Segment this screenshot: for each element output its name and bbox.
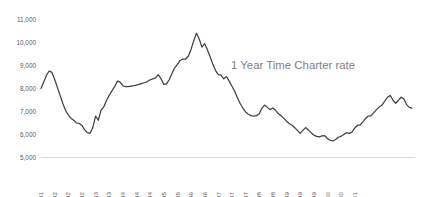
x-tick-label: 8-1996	[201, 191, 208, 197]
line-chart: 5,0006,0007,0008,0009,00010,00011,000 8-…	[0, 0, 424, 197]
x-tick-label: 2-1994	[119, 191, 126, 197]
y-tick-label: 11,000	[17, 16, 37, 23]
chart-title: 1 Year Time Charter rate	[231, 59, 355, 71]
y-tick-label: 8,000	[20, 85, 36, 92]
x-tick-label: 6-1992	[64, 191, 71, 197]
x-tick-label: 10-2000	[337, 191, 344, 197]
x-tick-label: 9-1993	[105, 191, 112, 197]
x-axis-tick-labels: 8-19911-19926-199211-19924-19939-19932-1…	[37, 191, 358, 197]
x-tick-label: 4-1993	[92, 191, 99, 197]
x-tick-label: 5-1995	[160, 191, 167, 197]
x-tick-label: 6-1997	[228, 191, 235, 197]
x-tick-label: 11-1997	[242, 191, 249, 197]
x-tick-label: 5-2000	[324, 191, 331, 197]
y-tick-label: 10,000	[16, 39, 36, 46]
x-tick-label: 10-1995	[174, 191, 181, 197]
x-tick-label: 7-1994	[133, 191, 140, 197]
y-tick-label: 5,000	[20, 154, 36, 161]
x-tick-label: 12-1994	[146, 191, 153, 197]
x-tick-label: 9-1998	[269, 191, 276, 197]
y-tick-label: 6,000	[20, 131, 36, 138]
x-tick-label: 1-1997	[215, 191, 222, 197]
x-tick-label: 8-1991	[37, 191, 44, 197]
y-tick-label: 7,000	[20, 108, 36, 115]
x-tick-label: 2-1999	[283, 191, 290, 197]
y-axis-tick-labels: 5,0006,0007,0008,0009,00010,00011,000	[16, 16, 36, 161]
y-tick-label: 9,000	[20, 62, 36, 69]
data-series-line	[41, 33, 412, 141]
x-tick-label: 3-1996	[187, 191, 194, 197]
x-tick-label: 11-1992	[78, 191, 85, 197]
x-tick-label: 7-1999	[296, 191, 303, 197]
x-tick-label: 1-1992	[51, 191, 58, 197]
chart-container: 5,0006,0007,0008,0009,00010,00011,000 8-…	[0, 0, 424, 197]
x-tick-label: 12-1999	[310, 191, 317, 197]
x-tick-label: 3-2001	[351, 191, 358, 197]
x-tick-label: 4-1998	[255, 191, 262, 197]
